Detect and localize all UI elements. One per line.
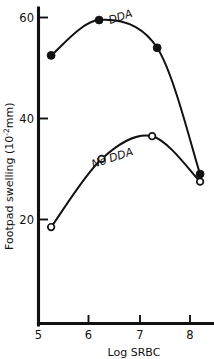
y-tick-label-40: 40 [19, 112, 34, 126]
data-point [149, 133, 156, 140]
data-point [196, 170, 204, 178]
y-tick-label-20: 20 [19, 213, 34, 227]
y-axis-title-main: Footpad swelling (10 [3, 136, 16, 250]
x-tick-label-7: 7 [136, 328, 143, 342]
y-tick-label-60: 60 [19, 11, 34, 25]
x-axis-title: Log SRBC [108, 346, 161, 359]
data-point [153, 44, 161, 52]
x-tick-label-6: 6 [85, 328, 92, 342]
x-tick-label-8: 8 [186, 328, 193, 342]
x-tick-label-5: 5 [35, 328, 42, 342]
data-point [47, 51, 55, 59]
chart-page: 60 40 20 5 6 7 8 Log SRBC Footpad swelli… [0, 0, 214, 359]
y-axis-title-tail: mm) [3, 102, 16, 128]
y-axis-title: Footpad swelling (10-2mm) [2, 102, 16, 250]
footpad-swelling-chart: 60 40 20 5 6 7 8 Log SRBC Footpad swelli… [0, 0, 214, 359]
data-point [197, 178, 204, 185]
data-point [95, 16, 103, 24]
data-point [48, 224, 55, 231]
